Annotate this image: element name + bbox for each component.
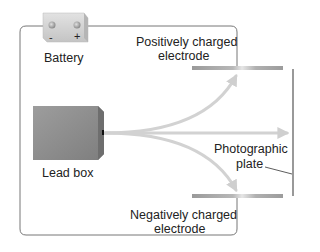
- negative-terminal: [49, 22, 56, 29]
- positive-electrode: [192, 66, 283, 70]
- plate-pointer-line: [265, 167, 292, 174]
- ray-deflected-up: [105, 76, 236, 133]
- lead-box: [33, 106, 104, 160]
- cathode-rays: [105, 76, 287, 190]
- lead-box-label: Lead box: [42, 166, 93, 180]
- battery-label: Battery: [44, 51, 84, 65]
- negative-electrode: [192, 194, 283, 198]
- battery-minus-label: -: [49, 30, 53, 44]
- battery-plus-label: +: [74, 29, 80, 43]
- negative-electrode-label-line1: Negatively charged: [130, 208, 237, 222]
- positive-electrode-label-line2: electrode: [158, 49, 209, 63]
- photographic-plate-label-line1: Photographic: [214, 142, 288, 156]
- negative-electrode-label-line2: electrode: [154, 222, 205, 236]
- positive-electrode-label-line1: Positively charged: [136, 35, 237, 49]
- positive-terminal: [74, 22, 81, 29]
- photographic-plate-label-line2: plate: [236, 157, 263, 171]
- lead-box-aperture: [102, 130, 104, 135]
